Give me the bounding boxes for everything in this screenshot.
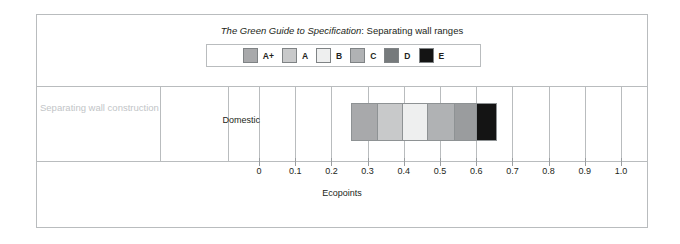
- axis-tick: [585, 158, 586, 166]
- axis-tick-label: 0.9: [579, 166, 592, 176]
- axis-tick: [549, 158, 550, 166]
- chart-title-rest: : Separating wall ranges: [361, 25, 463, 36]
- axis-tick: [621, 158, 622, 166]
- axis-tick: [512, 158, 513, 166]
- row-label-category: Separating wall construction: [40, 101, 170, 114]
- legend-swatch-e: [419, 48, 434, 63]
- axis-tick-label: 0: [256, 166, 261, 176]
- legend-label: C: [370, 51, 376, 61]
- chart-title-emphasis: The Green Guide to Specification: [221, 25, 361, 36]
- legend-item: E: [419, 48, 445, 63]
- row-label-subcategory: Domestic: [160, 115, 260, 125]
- legend-item: B: [316, 48, 342, 63]
- axis-tick-label: 0.6: [470, 166, 483, 176]
- chart-title: The Green Guide to Specification: Separa…: [36, 25, 648, 37]
- axis-tick-label: 0.2: [325, 166, 338, 176]
- axis-tick-label: 0.8: [542, 166, 555, 176]
- plot-top-border: [36, 86, 648, 87]
- legend-item: A: [282, 48, 308, 63]
- legend-swatch-aplus: [243, 48, 258, 63]
- gridline: [331, 86, 332, 162]
- bar-segment-d: [454, 103, 476, 141]
- bar-segment-a: [377, 103, 402, 141]
- axis-tick-label: 0.7: [506, 166, 519, 176]
- axis-tick: [476, 158, 477, 166]
- stacked-bar: [351, 103, 497, 141]
- legend-swatch-c: [350, 48, 365, 63]
- legend-label: A+: [263, 51, 274, 61]
- gridline: [549, 86, 550, 162]
- legend-item: C: [350, 48, 376, 63]
- gridline: [585, 86, 586, 162]
- gridline: [512, 86, 513, 162]
- bar-segment-e: [476, 103, 497, 141]
- legend-item: D: [384, 48, 410, 63]
- axis-tick: [295, 158, 296, 166]
- axis-tick-label: 0.4: [398, 166, 411, 176]
- bar-segment-aplus: [351, 103, 376, 141]
- x-axis-tick-labels: 00.10.20.30.40.50.60.70.80.91.0: [0, 166, 680, 180]
- plot-bottom-border: [36, 161, 648, 162]
- gridline: [295, 86, 296, 162]
- legend-label: D: [404, 51, 410, 61]
- legend-swatch-d: [384, 48, 399, 63]
- axis-tick: [331, 158, 332, 166]
- axis-tick-label: 0.1: [289, 166, 302, 176]
- axis-tick-label: 0.3: [361, 166, 374, 176]
- legend-item: A+: [243, 48, 274, 63]
- legend-label: B: [336, 51, 342, 61]
- bar-segment-c: [427, 103, 454, 141]
- axis-tick: [368, 158, 369, 166]
- chart-legend: A+ABCDE: [206, 44, 481, 67]
- axis-tick: [440, 158, 441, 166]
- chart-page: The Green Guide to Specification: Separa…: [0, 0, 680, 244]
- legend-label: E: [439, 51, 445, 61]
- axis-tick-label: 1.0: [615, 166, 628, 176]
- bar-segment-b: [402, 103, 427, 141]
- legend-swatch-a: [282, 48, 297, 63]
- x-axis-title: Ecopoints: [36, 188, 648, 198]
- legend-label: A: [302, 51, 308, 61]
- axis-tick: [259, 158, 260, 166]
- axis-tick: [404, 158, 405, 166]
- axis-tick-label: 0.5: [434, 166, 447, 176]
- legend-swatch-b: [316, 48, 331, 63]
- chart-plot-area: [36, 86, 648, 162]
- gridline: [621, 86, 622, 162]
